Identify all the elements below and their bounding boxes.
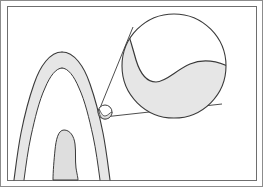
figure-root: Tooth cross-section with magnified detai… [0, 0, 263, 187]
detail-marker-group[interactable] [98, 105, 112, 119]
tooth-diagram-svg [0, 0, 263, 187]
